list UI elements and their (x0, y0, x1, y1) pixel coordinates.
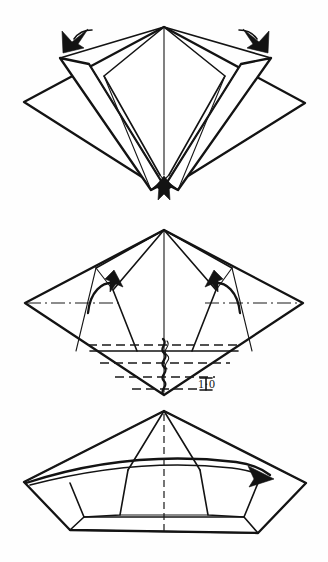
step-number-label: 1·0 (198, 376, 216, 392)
step-number-text: 1·0 (198, 377, 216, 391)
figure-3-group (24, 411, 306, 533)
figure-1-group (24, 27, 305, 200)
instruction-sheet: .ln { fill:none; stroke:#131313; stroke-… (0, 0, 328, 562)
figure-2-group (25, 230, 303, 395)
origami-diagram: .ln { fill:none; stroke:#131313; stroke-… (0, 0, 328, 562)
